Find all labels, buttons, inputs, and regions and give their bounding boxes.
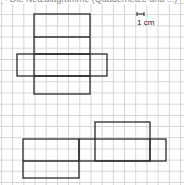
scale-marker-icon [137, 12, 144, 16]
net-2 [23, 122, 166, 178]
net-1 [17, 14, 107, 94]
grid-paper: ▪ Die Netzdiagramme (Quadernetze und ...… [0, 0, 184, 185]
net-diagrams [0, 0, 184, 185]
